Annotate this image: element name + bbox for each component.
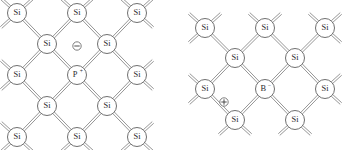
dangling-bond xyxy=(211,13,221,23)
atom-label: Si xyxy=(44,39,52,48)
covalent-bond xyxy=(301,95,319,114)
covalent-bond xyxy=(23,112,41,131)
atom-charge-superscript: − xyxy=(268,82,271,88)
dangling-bond xyxy=(0,143,10,150)
dangling-bond xyxy=(188,34,198,44)
covalent-bond xyxy=(23,50,41,69)
silicon-atom: Si xyxy=(226,49,245,68)
dangling-bond xyxy=(241,126,251,136)
covalent-bond xyxy=(271,34,289,52)
covalent-bond xyxy=(211,64,229,83)
silicon-atom: Si xyxy=(128,4,147,23)
covalent-bond xyxy=(241,95,259,114)
covalent-bond xyxy=(113,50,131,69)
covalent-bond xyxy=(113,19,131,38)
atom-label: Si xyxy=(262,23,270,32)
atom-label: Si xyxy=(292,115,300,124)
dangling-bond xyxy=(188,13,198,23)
atom-label: Si xyxy=(104,39,112,48)
silicon-atom: Si xyxy=(38,97,57,116)
carrier-free-electron-symbol xyxy=(73,42,81,50)
silicon-atom: Si xyxy=(196,19,215,38)
covalent-bond xyxy=(271,64,289,83)
covalent-bond xyxy=(83,81,101,100)
covalent-bond xyxy=(113,112,131,131)
silicon-atom: Si xyxy=(226,111,245,130)
atom-label: Si xyxy=(14,132,22,141)
silicon-atom: Si xyxy=(68,4,87,23)
dangling-bond xyxy=(83,143,93,150)
atom-label: Si xyxy=(74,8,82,17)
covalent-bond xyxy=(241,64,259,83)
atom-label: Si xyxy=(292,53,300,62)
silicon-atom: Si xyxy=(98,97,117,116)
silicon-atom: Si xyxy=(128,128,147,147)
dangling-bond xyxy=(60,143,70,150)
dangling-bond xyxy=(143,143,153,150)
atom-label: Si xyxy=(14,70,22,79)
covalent-bond xyxy=(83,50,101,69)
covalent-bond xyxy=(113,81,131,100)
dangling-bond xyxy=(188,74,198,84)
covalent-bond xyxy=(211,34,229,52)
dangling-bond xyxy=(143,60,153,70)
covalent-bond xyxy=(53,19,71,38)
silicon-atom: Si xyxy=(8,4,27,23)
covalent-bond xyxy=(83,19,101,38)
dangling-bond xyxy=(23,0,33,7)
atom-label: Si xyxy=(322,23,330,32)
covalent-bond xyxy=(53,50,71,69)
atom-label: Si xyxy=(202,23,210,32)
silicon-atom: Si xyxy=(286,49,305,68)
dangling-bond xyxy=(143,0,153,7)
covalent-bond xyxy=(23,19,41,38)
covalent-bond xyxy=(53,112,71,131)
atom-label: Si xyxy=(232,53,240,62)
dangling-bond xyxy=(278,126,288,136)
atom-label: Si xyxy=(44,101,52,110)
silicon-atom: Si xyxy=(316,19,335,38)
silicon-atom: Si xyxy=(8,66,27,85)
dangling-bond xyxy=(120,143,130,150)
dangling-bond xyxy=(0,122,10,132)
atom-label: Si xyxy=(134,8,142,17)
dangling-bond xyxy=(143,19,153,29)
dangling-bond xyxy=(188,95,198,105)
dangling-bond xyxy=(23,143,33,150)
silicon-atom: Si xyxy=(8,128,27,147)
lattice-canvas: SiSiSiSiSiSiP+SiSiSiSiSiSiSiSiSiSiSiSiB−… xyxy=(0,0,352,150)
dangling-bond xyxy=(331,95,341,105)
atom-label: P xyxy=(73,70,78,79)
dangling-bond xyxy=(143,122,153,132)
covalent-bond xyxy=(23,81,41,100)
atom-label: Si xyxy=(202,84,210,93)
doped-silicon-figure: SiSiSiSiSiSiP+SiSiSiSiSiSiSiSiSiSiSiSiB−… xyxy=(0,0,352,150)
silicon-atom: Si xyxy=(196,80,215,99)
atom-layer: SiSiSiSiSiSiP+SiSiSiSiSiSiSiSiSiSiSiSiB−… xyxy=(8,4,335,147)
silicon-atom: Si xyxy=(256,19,275,38)
covalent-bond xyxy=(271,95,289,114)
dangling-bond xyxy=(271,13,281,23)
dangling-bond xyxy=(308,13,318,23)
dopant-atom-p: P+ xyxy=(68,66,87,85)
atom-charge-superscript: + xyxy=(80,68,83,74)
atom-label: Si xyxy=(14,8,22,17)
dangling-bond xyxy=(331,74,341,84)
dangling-bond xyxy=(0,60,10,70)
dangling-bond xyxy=(0,19,10,29)
silicon-atom: Si xyxy=(98,35,117,54)
dangling-bond xyxy=(0,81,10,91)
dangling-bond xyxy=(331,13,341,23)
dangling-bond xyxy=(60,0,70,7)
silicon-atom: Si xyxy=(286,111,305,130)
dangling-bond xyxy=(248,13,258,23)
dangling-bond xyxy=(143,81,153,91)
dangling-bond xyxy=(0,0,10,7)
dopant-atom-b: B− xyxy=(256,80,275,99)
silicon-atom: Si xyxy=(316,80,335,99)
covalent-bond xyxy=(301,64,319,83)
silicon-atom: Si xyxy=(38,35,57,54)
covalent-bond xyxy=(241,34,259,52)
atom-label: B xyxy=(260,84,266,93)
dangling-bond xyxy=(218,126,228,136)
